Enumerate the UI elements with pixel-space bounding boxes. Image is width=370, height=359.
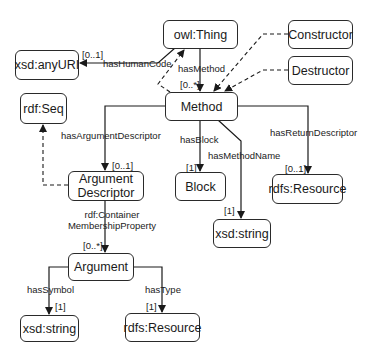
label-has-return-descriptor-card: [0..1] [285, 163, 306, 174]
label-has-block: hasBlock [180, 134, 219, 145]
label-container-membership-card: [0..*] [83, 240, 103, 251]
label-has-human-code: hasHumanCode [103, 58, 172, 69]
label-has-type-card: [1] [146, 301, 157, 312]
node-rdf-seq: rdf:Seq [20, 93, 67, 124]
node-method: Method [165, 92, 238, 121]
label-container-membership: rdf:Container MembershipProperty [64, 209, 160, 231]
node-xsd-string-name: xsd:string [213, 219, 271, 248]
edge-destructor-subclass-method [225, 70, 288, 91]
node-xsd-string-symbol: xsd:string [20, 315, 79, 342]
label-has-method-name-card: [1] [224, 205, 235, 216]
node-argument-descriptor: Argument Descriptor [68, 171, 144, 201]
label-has-symbol-card: [1] [55, 301, 66, 312]
label-has-method: hasMethod [178, 63, 225, 74]
label-has-block-card: [1] [186, 162, 197, 173]
node-xsd-anyuri: xsd:anyURI [15, 50, 79, 80]
label-has-symbol: hasSymbol [27, 284, 74, 295]
node-argument-descriptor-line1: Argument [79, 172, 133, 186]
node-owl-thing: owl:Thing [163, 20, 238, 49]
label-has-argument-descriptor-card: [0..1] [112, 160, 133, 171]
label-has-human-code-card: [0..1] [82, 49, 103, 60]
label-has-type: hasType [145, 284, 181, 295]
label-has-argument-descriptor: hasArgumentDescriptor [61, 130, 161, 141]
label-container-membership-line2: MembershipProperty [64, 220, 160, 231]
label-has-return-descriptor: hasReturnDescriptor [270, 127, 357, 138]
label-has-method-name: hasMethodName [208, 150, 280, 161]
node-block: Block [175, 172, 226, 201]
node-argument-descriptor-line2: Descriptor [78, 186, 135, 200]
node-rdfs-resource-type: rdfs:Resource [125, 313, 200, 342]
label-container-membership-line1: rdf:Container [64, 209, 160, 220]
edge-has-method-name [218, 120, 241, 218]
node-constructor: Constructor [288, 20, 353, 49]
node-argument: Argument [68, 253, 134, 281]
label-has-method-card: [0..*] [180, 79, 200, 90]
node-rdfs-resource-return: rdfs:Resource [272, 174, 343, 204]
node-destructor: Destructor [288, 56, 353, 85]
